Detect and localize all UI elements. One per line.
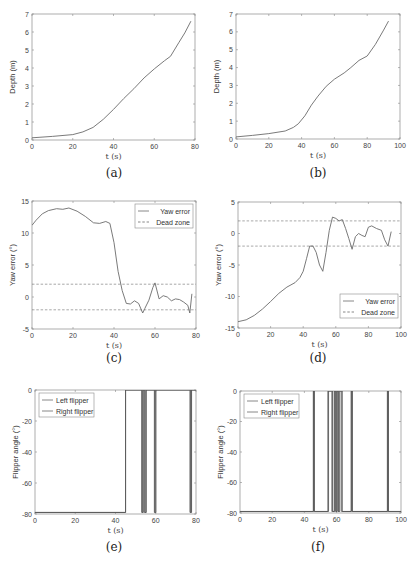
x-tick-label: 60 [150,143,158,150]
figure-canvas: 02040608001234567t (s)Depth (m)020406080… [0,0,419,572]
y-axis-label: Flipper angle (°) [216,425,225,479]
y-axis-label: Yaw error (°) [8,243,17,286]
y-tick-label: -10 [225,293,235,300]
y-tick-label: 5 [25,262,29,269]
y-tick-label: -40 [227,449,237,456]
x-axis-label: t (s) [107,526,123,535]
legend-label: Left flipper [56,397,89,405]
y-axis-label: Flipper angle (°) [11,425,20,479]
x-tick-label: 80 [192,332,200,339]
y-tick-label: 1 [25,119,29,126]
legend-label: Dead zone [361,309,395,316]
y-tick-label: 3 [25,83,29,90]
x-tick-label: 0 [30,332,34,339]
y-tick-label: 6 [25,29,29,36]
x-tick-label: 40 [298,142,306,149]
legend: Yaw errorDead zone [340,294,398,318]
plot-frame [32,14,195,140]
x-tick-label: 20 [268,516,276,523]
y-tick-label: 0 [229,136,233,143]
y-tick-label: -5 [229,262,235,269]
caption-c: (c) [94,351,134,365]
legend: Left flipperRight flipper [39,393,94,417]
x-tick-label: 60 [331,142,339,149]
y-tick-label: -20 [227,418,237,425]
y-tick-label: 6 [229,28,233,35]
y-axis-label: Depth (m) [212,59,221,93]
y-tick-label: -5 [23,326,29,333]
y-tick-label: 2 [25,101,29,108]
legend: Left flipperRight flipper [244,394,299,418]
x-tick-label: 40 [301,516,309,523]
y-tick-label: -15 [225,325,235,332]
caption-b: (b) [298,166,338,180]
y-tick-label: 5 [231,199,235,206]
x-axis-label: t (s) [310,151,326,160]
y-tick-label: -60 [227,479,237,486]
y-tick-label: 1 [229,118,233,125]
caption-a: (a) [94,166,134,180]
legend: Yaw errorDead zone [135,204,193,228]
x-tick-label: 40 [112,517,120,524]
y-tick-label: -60 [22,480,32,487]
legend-label: Right flipper [56,408,94,416]
y-tick-label: 3 [229,82,233,89]
y-tick-label: 4 [25,65,29,72]
y-tick-label: 0 [233,388,237,395]
chart-c: 020406080-5051015t (s)Yaw error (°)Yaw e… [8,198,200,351]
x-tick-label: 60 [332,331,340,338]
x-tick-label: 20 [265,142,273,149]
legend-label: Left flipper [261,398,294,406]
x-tick-label: 80 [365,516,373,523]
x-tick-label: 60 [152,517,160,524]
y-tick-label: 4 [229,64,233,71]
x-tick-label: 40 [299,331,307,338]
x-tick-label: 0 [234,142,238,149]
x-axis-label: t (s) [106,341,122,350]
x-tick-label: 80 [363,142,371,149]
x-tick-label: 100 [394,142,406,149]
x-tick-label: 80 [192,517,200,524]
plot-frame [236,14,400,139]
y-tick-label: 0 [25,294,29,301]
x-tick-label: 0 [33,517,37,524]
chart-f: 020406080100-80-60-40-200t (s)Flipper an… [216,388,407,535]
x-tick-label: 100 [395,516,407,523]
y-tick-label: 7 [25,11,29,18]
x-axis-label: t (s) [312,525,328,534]
y-tick-label: 15 [21,198,29,205]
y-tick-label: 0 [28,387,32,394]
x-tick-label: 60 [333,516,341,523]
chart-a: 02040608001234567t (s)Depth (m) [8,11,199,162]
x-tick-label: 0 [30,143,34,150]
y-tick-label: -80 [22,511,32,518]
chart-e: 020406080-80-60-40-200t (s)Flipper angle… [11,387,200,536]
y-tick-label: -40 [22,449,32,456]
x-axis-label: t (s) [311,340,327,349]
legend-label: Yaw error [365,298,395,305]
y-tick-label: -80 [227,510,237,517]
caption-d: (d) [298,351,338,365]
x-tick-label: 0 [236,331,240,338]
x-tick-label: 80 [365,331,373,338]
legend-label: Dead zone [156,219,190,226]
x-axis-label: t (s) [105,152,121,161]
x-tick-label: 0 [238,516,242,523]
y-tick-label: 7 [229,11,233,18]
x-tick-label: 40 [110,143,118,150]
y-axis-label: Yaw error (°) [214,243,223,286]
legend-label: Yaw error [160,208,190,215]
x-tick-label: 20 [69,143,77,150]
y-tick-label: 0 [25,137,29,144]
y-tick-label: -20 [22,418,32,425]
legend-label: Right flipper [261,409,299,417]
x-tick-label: 20 [69,332,77,339]
x-tick-label: 60 [151,332,159,339]
chart-d: 020406080100-15-10-505t (s)Yaw error (°)… [214,199,407,350]
y-tick-label: 0 [231,230,235,237]
x-tick-label: 100 [395,331,407,338]
x-tick-label: 20 [71,517,79,524]
x-tick-label: 40 [110,332,118,339]
x-tick-label: 20 [267,331,275,338]
y-axis-label: Depth (m) [8,60,17,94]
